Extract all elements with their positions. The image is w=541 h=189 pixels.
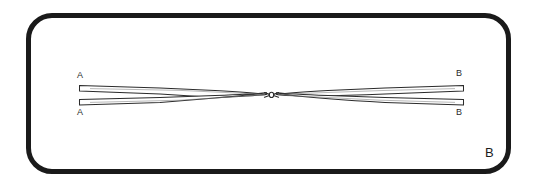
label-b-top: B: [456, 69, 462, 78]
label-a-top: A: [77, 71, 83, 80]
label-b-bottom: B: [456, 108, 462, 117]
crossing-node: [269, 92, 273, 97]
panel-letter: B: [485, 146, 494, 159]
diagram-drawing-area: [0, 0, 541, 189]
label-a-bottom: A: [77, 108, 83, 117]
crossing-bands-diagram: [0, 0, 541, 189]
figure-panel: A A B B B: [0, 0, 541, 189]
